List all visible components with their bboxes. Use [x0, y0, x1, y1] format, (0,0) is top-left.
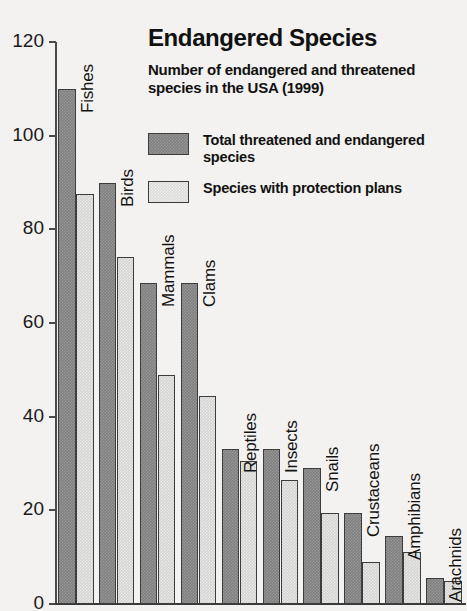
y-axis-tick-label: 80 [0, 217, 44, 239]
y-axis-tick [49, 41, 56, 43]
bar-total [263, 449, 281, 604]
bar-group: Insects [263, 42, 304, 604]
y-axis-tick-label: 120 [0, 30, 44, 52]
bar-group: Reptiles [222, 42, 263, 604]
category-label: Insects [282, 421, 302, 473]
chart-title: Endangered Species [148, 24, 458, 52]
bar-plans [117, 257, 135, 604]
bar-total [222, 449, 240, 604]
y-axis-tick [49, 228, 56, 230]
bar-group: Mammals [140, 42, 181, 604]
bar-group: Clams [181, 42, 222, 604]
y-axis-tick-label: 20 [0, 498, 44, 520]
bar-group: Arachnids [426, 42, 467, 604]
legend-item-plans: Species with protection plans [148, 180, 460, 203]
bar-plans [403, 552, 421, 604]
bar-group: Birds [99, 42, 140, 604]
bar-total [426, 578, 444, 604]
chart-subtitle: Number of endangered and threatened spec… [148, 61, 438, 98]
bar-group: Amphibians [385, 42, 426, 604]
bar-plans [321, 513, 339, 604]
category-label: Arachnids [446, 528, 466, 602]
bar-group: Fishes [58, 42, 99, 604]
category-label: Reptiles [241, 414, 261, 474]
chart-legend: Total threatened and endangered species … [148, 132, 460, 216]
bar-total [385, 536, 403, 604]
bar-total [58, 89, 76, 604]
bar-plans [199, 396, 217, 604]
category-label: Clams [200, 260, 220, 307]
category-label: Birds [118, 169, 138, 207]
y-axis-tick-label: 100 [0, 124, 44, 146]
bar-group: Crustaceans [344, 42, 385, 604]
bar-total [344, 513, 362, 604]
category-label: Fishes [78, 64, 98, 113]
y-axis-tick-label: 40 [0, 405, 44, 427]
bar-plans [158, 375, 176, 604]
legend-label-total: Total threatened and endangered species [203, 132, 448, 167]
bar-total [140, 283, 158, 604]
title-block: Endangered Species Number of endangered … [148, 24, 458, 98]
bar-plans [240, 461, 258, 604]
bar-total [303, 468, 321, 604]
bar-total [99, 183, 117, 605]
bar-plans [362, 562, 380, 604]
category-label: Crustaceans [364, 443, 384, 536]
y-axis-tick [49, 322, 56, 324]
legend-label-plans: Species with protection plans [203, 180, 402, 197]
bar-plans [76, 194, 94, 604]
plot-area: FishesBirdsMammalsClamsReptilesInsectsSn… [57, 42, 466, 604]
bar-plans [281, 480, 299, 604]
bar-group: Snails [303, 42, 344, 604]
bar-total [181, 283, 199, 604]
y-axis-tick-label: 0 [0, 592, 44, 611]
legend-swatch-total-icon [148, 133, 189, 155]
legend-item-total: Total threatened and endangered species [148, 132, 460, 167]
category-label: Snails [323, 447, 343, 492]
category-label: Mammals [159, 235, 179, 307]
y-axis-tick [49, 416, 56, 418]
y-axis-tick [49, 509, 56, 511]
legend-swatch-plans-icon [148, 181, 189, 203]
category-label: Amphibians [405, 473, 425, 560]
y-axis-tick-label: 60 [0, 311, 44, 333]
endangered-species-bar-chart: 120100806040200 FishesBirdsMammalsClamsR… [0, 0, 467, 611]
y-axis-tick [49, 135, 56, 137]
